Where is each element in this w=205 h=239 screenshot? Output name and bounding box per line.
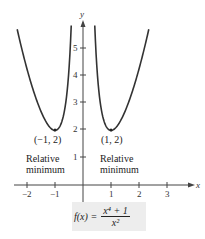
y-axis-label: y [79, 9, 84, 19]
y-tick-label: 2 [73, 124, 78, 134]
formula-fraction: x⁴ + 1 x² [101, 205, 130, 228]
curve-right-branch [95, 25, 149, 130]
x-tick-label: −2 [22, 189, 32, 199]
point-label-right: (1, 2) [101, 134, 123, 146]
x-tick-label: −1 [50, 189, 60, 199]
formula-denominator: x² [112, 217, 119, 228]
x-axis-arrow-icon [188, 183, 195, 188]
x-tick-label: 3 [165, 189, 170, 199]
relative-min-label-left-2: minimum [26, 164, 65, 175]
y-tick-label: 5 [73, 43, 78, 53]
relative-min-label-right-1: Relative [100, 153, 134, 164]
x-axis-label: x [195, 180, 200, 190]
y-tick-label: 3 [73, 97, 78, 107]
point-label-left: (−1, 2) [34, 134, 61, 146]
formula-numerator: x⁴ + 1 [101, 205, 130, 217]
figure: x y −2 −1 1 2 3 1 2 3 4 5 [0, 0, 205, 239]
x-tick-label: 2 [137, 189, 142, 199]
y-axis-arrow-icon [81, 20, 86, 27]
formula-lhs: f(x) = [74, 211, 97, 222]
relative-min-label-left-1: Relative [26, 153, 60, 164]
relative-minimum-point-right [110, 129, 113, 132]
relative-min-label-right-2: minimum [100, 164, 139, 175]
y-tick-label: 4 [73, 70, 78, 80]
y-tick-label: 1 [73, 152, 78, 162]
x-tick-label: 1 [109, 189, 114, 199]
relative-minimum-point-left [54, 129, 57, 132]
curve-left-branch [17, 25, 71, 130]
function-formula: f(x) = x⁴ + 1 x² [74, 204, 130, 229]
